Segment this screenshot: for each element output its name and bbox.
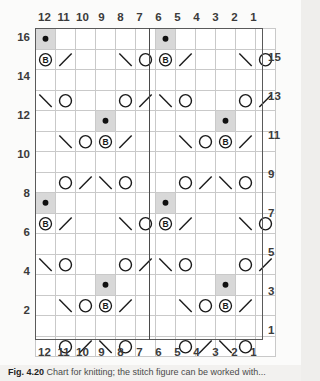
chart-cell-r7-c11[interactable]	[56, 213, 76, 234]
chart-cell-r12-c8[interactable]	[116, 111, 136, 132]
chart-cell-r11-c5[interactable]	[176, 131, 196, 152]
chart-cell-r6-c8[interactable]	[116, 234, 136, 255]
chart-cell-r12-c9[interactable]	[96, 111, 116, 132]
chart-cell-r9-c12[interactable]	[36, 172, 56, 193]
chart-cell-r15-c10[interactable]	[76, 49, 96, 70]
chart-cell-r3-c8[interactable]	[116, 295, 136, 316]
chart-cell-r2-c2[interactable]	[236, 316, 256, 337]
chart-cell-r16-c6[interactable]	[156, 29, 176, 50]
chart-cell-r4-c8[interactable]	[116, 275, 136, 296]
chart-cell-r6-c2[interactable]	[236, 234, 256, 255]
chart-cell-r8-c6[interactable]	[156, 193, 176, 214]
chart-cell-r8-c12[interactable]	[36, 193, 56, 214]
chart-cell-r11-c10[interactable]	[76, 131, 96, 152]
chart-cell-r13-c11[interactable]	[56, 90, 76, 111]
chart-cell-r10-c9[interactable]	[96, 152, 116, 173]
chart-cell-r3-c7[interactable]	[136, 295, 156, 316]
chart-cell-r6-c4[interactable]	[196, 234, 216, 255]
chart-cell-r6-c5[interactable]	[176, 234, 196, 255]
chart-cell-r12-c2[interactable]	[236, 111, 256, 132]
chart-cell-r3-c10[interactable]	[76, 295, 96, 316]
chart-cell-r10-c3[interactable]	[216, 152, 236, 173]
chart-cell-r4-c2[interactable]	[236, 275, 256, 296]
chart-cell-r4-c7[interactable]	[136, 275, 156, 296]
chart-cell-r9-c9[interactable]	[96, 172, 116, 193]
chart-cell-r11-c7[interactable]	[136, 131, 156, 152]
chart-cell-r16-c3[interactable]	[216, 29, 236, 50]
chart-cell-r14-c11[interactable]	[56, 70, 76, 91]
chart-cell-r7-c12[interactable]: B	[36, 213, 56, 234]
chart-cell-r3-c9[interactable]: B	[96, 295, 116, 316]
chart-cell-r13-c5[interactable]	[176, 90, 196, 111]
chart-cell-r14-c9[interactable]	[96, 70, 116, 91]
chart-cell-r2-c7[interactable]	[136, 316, 156, 337]
chart-cell-r14-c5[interactable]	[176, 70, 196, 91]
chart-cell-r16-c11[interactable]	[56, 29, 76, 50]
chart-cell-r7-c7[interactable]	[136, 213, 156, 234]
chart-cell-r16-c8[interactable]	[116, 29, 136, 50]
chart-cell-r3-c11[interactable]	[56, 295, 76, 316]
chart-cell-r11-c4[interactable]	[196, 131, 216, 152]
chart-cell-r11-c3[interactable]: B	[216, 131, 236, 152]
chart-cell-r12-c3[interactable]	[216, 111, 236, 132]
chart-cell-r2-c11[interactable]	[56, 316, 76, 337]
chart-cell-r10-c8[interactable]	[116, 152, 136, 173]
chart-cell-r5-c5[interactable]	[176, 254, 196, 275]
chart-cell-r13-c6[interactable]	[156, 90, 176, 111]
chart-cell-r10-c7[interactable]	[136, 152, 156, 173]
chart-cell-r16-c1[interactable]	[256, 29, 276, 50]
chart-cell-r16-c5[interactable]	[176, 29, 196, 50]
chart-cell-r9-c5[interactable]	[176, 172, 196, 193]
chart-cell-r5-c4[interactable]	[196, 254, 216, 275]
chart-cell-r15-c5[interactable]	[176, 49, 196, 70]
chart-cell-r14-c3[interactable]	[216, 70, 236, 91]
chart-cell-r11-c2[interactable]	[236, 131, 256, 152]
chart-cell-r8-c7[interactable]	[136, 193, 156, 214]
chart-cell-r15-c9[interactable]	[96, 49, 116, 70]
chart-cell-r12-c10[interactable]	[76, 111, 96, 132]
chart-cell-r14-c10[interactable]	[76, 70, 96, 91]
chart-cell-r12-c5[interactable]	[176, 111, 196, 132]
chart-cell-r3-c6[interactable]	[156, 295, 176, 316]
chart-cell-r12-c7[interactable]	[136, 111, 156, 132]
chart-cell-r10-c2[interactable]	[236, 152, 256, 173]
chart-cell-r4-c6[interactable]	[156, 275, 176, 296]
chart-cell-r15-c4[interactable]	[196, 49, 216, 70]
chart-cell-r15-c2[interactable]	[236, 49, 256, 70]
chart-cell-r13-c8[interactable]	[116, 90, 136, 111]
chart-cell-r11-c6[interactable]	[156, 131, 176, 152]
chart-cell-r15-c11[interactable]	[56, 49, 76, 70]
chart-cell-r9-c3[interactable]	[216, 172, 236, 193]
chart-cell-r6-c12[interactable]	[36, 234, 56, 255]
chart-cell-r5-c8[interactable]	[116, 254, 136, 275]
chart-cell-r8-c10[interactable]	[76, 193, 96, 214]
chart-cell-r8-c11[interactable]	[56, 193, 76, 214]
chart-cell-r14-c6[interactable]	[156, 70, 176, 91]
chart-cell-r12-c12[interactable]	[36, 111, 56, 132]
chart-cell-r16-c9[interactable]	[96, 29, 116, 50]
chart-cell-r9-c8[interactable]	[116, 172, 136, 193]
chart-cell-r8-c2[interactable]	[236, 193, 256, 214]
chart-cell-r10-c12[interactable]	[36, 152, 56, 173]
chart-cell-r14-c2[interactable]	[236, 70, 256, 91]
chart-cell-r14-c12[interactable]	[36, 70, 56, 91]
chart-cell-r11-c8[interactable]	[116, 131, 136, 152]
chart-cell-r10-c10[interactable]	[76, 152, 96, 173]
chart-cell-r4-c11[interactable]	[56, 275, 76, 296]
chart-cell-r2-c4[interactable]	[196, 316, 216, 337]
chart-cell-r9-c10[interactable]	[76, 172, 96, 193]
chart-cell-r6-c7[interactable]	[136, 234, 156, 255]
chart-cell-r4-c12[interactable]	[36, 275, 56, 296]
chart-cell-r2-c12[interactable]	[36, 316, 56, 337]
chart-cell-r3-c3[interactable]: B	[216, 295, 236, 316]
chart-cell-r6-c10[interactable]	[76, 234, 96, 255]
chart-cell-r6-c6[interactable]	[156, 234, 176, 255]
chart-cell-r16-c10[interactable]	[76, 29, 96, 50]
chart-cell-r16-c2[interactable]	[236, 29, 256, 50]
chart-cell-r7-c10[interactable]	[76, 213, 96, 234]
chart-cell-r15-c7[interactable]	[136, 49, 156, 70]
chart-cell-r5-c2[interactable]	[236, 254, 256, 275]
chart-cell-r8-c3[interactable]	[216, 193, 236, 214]
chart-cell-r7-c3[interactable]	[216, 213, 236, 234]
chart-cell-r5-c12[interactable]	[36, 254, 56, 275]
